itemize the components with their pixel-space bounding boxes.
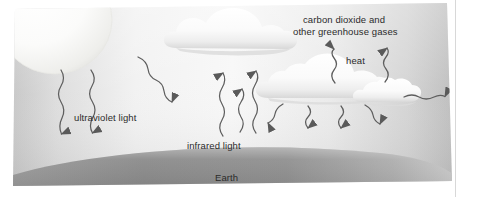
greenhouse-effect-diagram: ultraviolet light infrared light carbon … xyxy=(0,0,477,197)
label-greenhouse-gases-line1: carbon dioxide and xyxy=(303,14,385,26)
label-earth: Earth xyxy=(215,172,238,184)
label-greenhouse-gases-line2: other greenhouse gases xyxy=(293,26,398,38)
diagram-canvas xyxy=(0,0,477,197)
label-heat: heat xyxy=(346,55,365,67)
label-infrared-light: infrared light xyxy=(187,140,241,152)
label-ultraviolet-light: ultraviolet light xyxy=(74,112,136,124)
